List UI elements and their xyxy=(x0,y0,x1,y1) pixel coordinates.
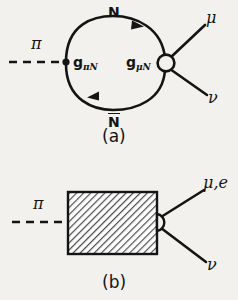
muon-line-a xyxy=(170,25,205,58)
neutrino-line-b xyxy=(161,228,206,262)
vertex-mu-n-circle xyxy=(158,55,175,72)
neutrino-label-b: ν xyxy=(207,257,217,273)
lepton-label-b: μ,e xyxy=(203,175,228,191)
coupling-pi-n-label: gπN xyxy=(73,54,98,70)
antinucleon-arrow-bottom xyxy=(87,92,99,101)
nucleon-label-top: N xyxy=(108,5,120,19)
caption-a: (a) xyxy=(102,126,126,146)
diagram-a-graphics xyxy=(9,16,207,110)
pion-label-b: π xyxy=(33,196,44,212)
interaction-blob xyxy=(68,192,157,254)
neutrino-label-a: ν xyxy=(208,90,218,106)
neutrino-line-a xyxy=(170,69,207,95)
coupling-pi-n-base: g xyxy=(73,54,83,70)
caption-b: (b) xyxy=(102,272,126,292)
lepton-line-b xyxy=(161,190,204,217)
vertex-pi-n-dot xyxy=(62,58,69,65)
vertex-weak-circle-b xyxy=(157,214,164,231)
coupling-mu-n-base: g xyxy=(126,54,136,70)
coupling-mu-n-sub: μN xyxy=(136,62,151,72)
pion-label-a: π xyxy=(31,36,42,52)
figure-root: π N N gπN gμN μ ν (a) π μ,e ν (b) xyxy=(0,0,238,300)
coupling-mu-n-label: gμN xyxy=(126,54,151,70)
coupling-pi-n-sub: πN xyxy=(83,62,98,72)
muon-label-a: μ xyxy=(206,10,216,26)
